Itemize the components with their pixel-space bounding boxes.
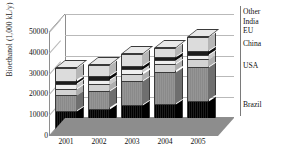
bar-segment-2002-china[interactable] (88, 84, 110, 91)
x-tick-2004: 2004 (148, 137, 182, 146)
legend-item-india[interactable]: India (243, 18, 259, 26)
x-tick-2003: 2003 (115, 137, 149, 146)
legend-item-other[interactable]: Other (243, 8, 260, 16)
chart-figure: Bioethanol (1,000 kL/y) 0100002000030000… (0, 0, 283, 151)
y-axis-tick-labels: 01000020000300004000050000 (10, 0, 48, 151)
bar-segment-2005-china[interactable] (187, 59, 209, 67)
y-tick-20000: 20000 (12, 90, 48, 98)
bar-segment-2002-other[interactable] (88, 65, 110, 76)
y-tick-50000: 50000 (12, 28, 48, 36)
bar-segment-2004-china[interactable] (154, 64, 176, 71)
y-tick-30000: 30000 (12, 70, 48, 78)
bar-segment-2002-usa[interactable] (88, 91, 110, 108)
chart-title-cropped (86, 0, 196, 1)
plot-area (49, 14, 234, 136)
bar-segment-2004-other[interactable] (154, 48, 176, 57)
bar-segment-2003-china[interactable] (121, 74, 143, 81)
bar-segment-2001-usa[interactable] (55, 95, 77, 111)
plot-floor (49, 118, 234, 136)
legend-item-usa[interactable]: USA (243, 62, 258, 70)
bar-segment-side (175, 67, 183, 103)
plot-left-edge (49, 32, 50, 136)
bar-segment-2001-china[interactable] (55, 89, 77, 96)
bar-segment-2005-usa[interactable] (187, 67, 209, 100)
bar-segment-2005-other[interactable] (187, 37, 209, 51)
x-tick-2002: 2002 (82, 137, 116, 146)
legend-leader-line (240, 6, 241, 116)
x-axis-tick-labels: 20012002200320042005 (0, 137, 283, 151)
legend-item-eu[interactable]: EU (243, 27, 253, 35)
chart-legend: OtherIndiaEUChinaUSABrazil (243, 0, 283, 151)
bar-segment-2003-other[interactable] (121, 54, 143, 66)
bar-segment-2004-usa[interactable] (154, 72, 176, 104)
x-tick-2001: 2001 (49, 137, 83, 146)
legend-item-brazil[interactable]: Brazil (243, 101, 262, 109)
bar-segment-side (208, 63, 216, 100)
bar-segment-2001-other[interactable] (55, 68, 77, 80)
x-tick-2005: 2005 (181, 137, 215, 146)
y-tick-10000: 10000 (12, 111, 48, 119)
legend-item-china[interactable]: China (243, 40, 261, 48)
y-tick-40000: 40000 (12, 49, 48, 57)
bar-segment-2003-usa[interactable] (121, 81, 143, 105)
gridline-50000 (65, 14, 234, 15)
